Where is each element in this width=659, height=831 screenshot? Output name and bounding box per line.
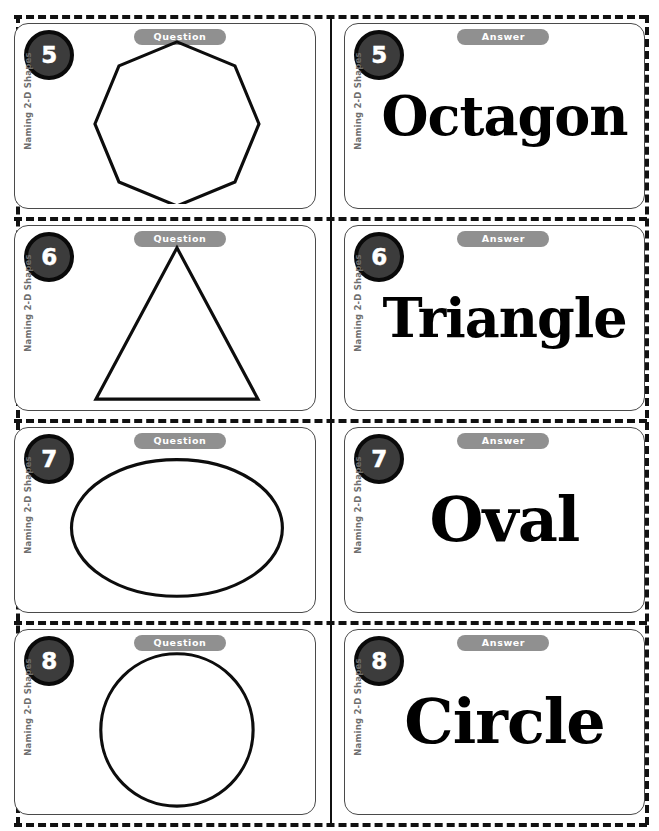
flashcard-question-7[interactable]: 7Naming 2-D ShapesQuestion <box>14 427 316 613</box>
topic-side-label: Naming 2-D Shapes <box>351 96 365 209</box>
topic-side-label: Naming 2-D Shapes <box>351 298 365 411</box>
topic-side-label: Naming 2-D Shapes <box>21 298 35 411</box>
flashcard-question-5[interactable]: 5Naming 2-D ShapesQuestion <box>14 23 316 209</box>
topic-side-label-text: Naming 2-D Shapes <box>23 658 33 755</box>
answer-word: Circle <box>404 691 604 753</box>
flashcard-cell-answer-8: 8Naming 2-D ShapesAnswerCircle <box>330 621 659 823</box>
flashcard-question-6[interactable]: 6Naming 2-D ShapesQuestion <box>14 225 316 411</box>
flashcard-cell-question-6: 6Naming 2-D ShapesQuestion <box>0 217 330 419</box>
flashcard-answer-5[interactable]: 5Naming 2-D ShapesAnswerOctagon <box>344 23 645 209</box>
topic-side-label: Naming 2-D Shapes <box>21 702 35 815</box>
answer-word: Octagon <box>382 89 628 143</box>
topic-side-label-text: Naming 2-D Shapes <box>23 254 33 351</box>
flashcard-answer-7[interactable]: 7Naming 2-D ShapesAnswerOval <box>344 427 645 613</box>
topic-side-label-text: Naming 2-D Shapes <box>353 658 363 755</box>
topic-side-label-text: Naming 2-D Shapes <box>353 456 363 553</box>
answer-word: Oval <box>430 489 580 551</box>
answer-area: Oval <box>373 428 636 612</box>
topic-side-label-text: Naming 2-D Shapes <box>353 52 363 149</box>
shape-oval-icon <box>41 442 309 608</box>
topic-side-label: Naming 2-D Shapes <box>21 500 35 613</box>
topic-side-label: Naming 2-D Shapes <box>351 702 365 815</box>
flashcard-cell-answer-6: 6Naming 2-D ShapesAnswerTriangle <box>330 217 659 419</box>
flashcard-cell-question-5: 5Naming 2-D ShapesQuestion <box>0 15 330 217</box>
answer-area: Octagon <box>373 24 636 208</box>
card-grid: 5Naming 2-D ShapesQuestion5Naming 2-D Sh… <box>0 0 659 831</box>
answer-area: Triangle <box>373 226 636 410</box>
flashcard-cell-answer-7: 7Naming 2-D ShapesAnswerOval <box>330 419 659 621</box>
answer-area: Circle <box>373 630 636 814</box>
shape-triangle-icon <box>41 240 309 406</box>
flashcard-answer-6[interactable]: 6Naming 2-D ShapesAnswerTriangle <box>344 225 645 411</box>
topic-side-label-text: Naming 2-D Shapes <box>353 254 363 351</box>
topic-side-label: Naming 2-D Shapes <box>351 500 365 613</box>
topic-side-label-text: Naming 2-D Shapes <box>23 456 33 553</box>
flashcard-question-8[interactable]: 8Naming 2-D ShapesQuestion <box>14 629 316 815</box>
topic-side-label: Naming 2-D Shapes <box>21 96 35 209</box>
flashcard-cell-question-8: 8Naming 2-D ShapesQuestion <box>0 621 330 823</box>
shape-circle-icon <box>41 644 309 810</box>
shape-octagon-icon <box>41 38 309 204</box>
flashcard-sheet: 5Naming 2-D ShapesQuestion5Naming 2-D Sh… <box>0 0 659 831</box>
answer-word: Triangle <box>382 291 626 345</box>
flashcard-answer-8[interactable]: 8Naming 2-D ShapesAnswerCircle <box>344 629 645 815</box>
topic-side-label-text: Naming 2-D Shapes <box>23 52 33 149</box>
flashcard-cell-question-7: 7Naming 2-D ShapesQuestion <box>0 419 330 621</box>
flashcard-cell-answer-5: 5Naming 2-D ShapesAnswerOctagon <box>330 15 659 217</box>
